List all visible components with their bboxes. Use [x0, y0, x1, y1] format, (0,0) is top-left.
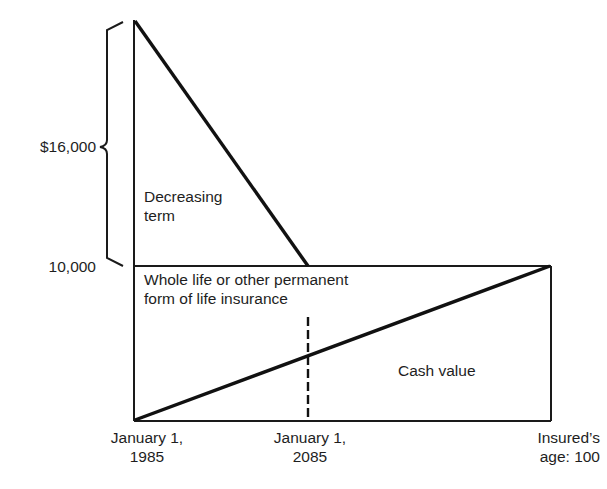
x-label-2085: January 1, 2085 [255, 428, 365, 466]
base-amount-label: 10,000 [20, 257, 96, 276]
decreasing-term-line [135, 21, 308, 266]
x-label-age-100: Insured’s age: 100 [486, 428, 600, 466]
x-label-start: January 1, 1985 [92, 428, 202, 466]
bracket-amount-label: $16,000 [8, 137, 96, 156]
cash-value-label: Cash value [398, 361, 476, 380]
decreasing-term-label: Decreasing term [144, 187, 222, 225]
permanent-insurance-label: Whole life or other permanent form of li… [144, 270, 348, 308]
amount-bracket-icon [100, 22, 123, 266]
insurance-diagram [0, 0, 607, 489]
